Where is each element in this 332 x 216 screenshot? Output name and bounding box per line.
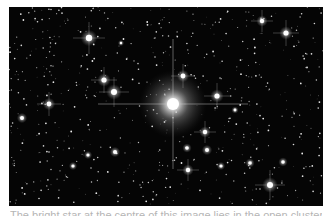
caption-text: The bright star at the centre of this im… [10,208,322,216]
star-field-photo [9,7,323,206]
image-caption: The bright star at the centre of this im… [10,208,322,216]
star-field [9,7,323,206]
